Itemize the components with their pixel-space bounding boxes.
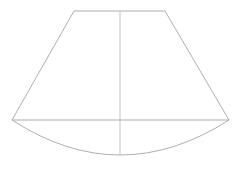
bottom-concave-arc-path: [12, 120, 229, 155]
trapezoid-outline-path: [12, 11, 229, 120]
geometric-figure-svg: [0, 0, 243, 169]
figure-canvas: [0, 0, 243, 169]
